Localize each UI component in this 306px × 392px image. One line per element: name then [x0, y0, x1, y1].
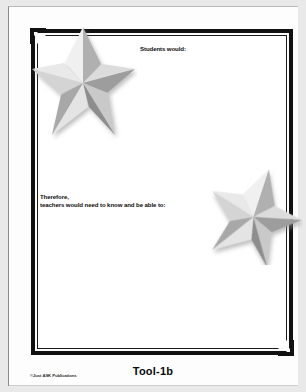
decorative-frame — [31, 29, 293, 355]
prompt-teachers-would: Therefore, teachers would need to know a… — [40, 193, 165, 209]
writing-field[interactable] — [39, 37, 285, 347]
tool-label: Tool-1b — [0, 365, 306, 377]
page-sheet: Students would: Therefore, teachers woul… — [8, 6, 298, 386]
scanned-page-canvas: Students would: Therefore, teachers woul… — [0, 0, 306, 392]
prompt-students-would: Students would: — [140, 45, 186, 53]
